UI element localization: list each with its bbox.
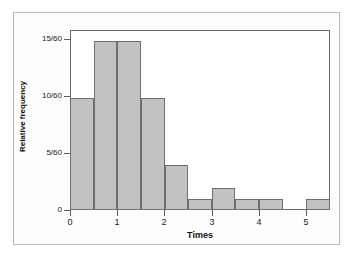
- x-tick-label-5: 5: [298, 217, 314, 228]
- histogram-bar: [165, 165, 189, 210]
- plot-area: [70, 30, 330, 210]
- y-tick-label-15-60: 15/60: [42, 34, 62, 43]
- histogram-bar: [259, 199, 283, 210]
- x-tick-3: [212, 210, 213, 216]
- histogram-bar: [141, 98, 165, 211]
- histogram-bar: [212, 188, 236, 211]
- histogram-bar: [94, 41, 118, 210]
- x-tick-2: [164, 210, 165, 216]
- x-tick-label-0: 0: [62, 217, 78, 228]
- y-tick-label-10-60: 10/60: [42, 91, 62, 100]
- histogram-figure: 0 5/60 10/60 15/60 Relative frequency 0 …: [0, 0, 361, 259]
- x-tick-label-4: 4: [251, 217, 267, 228]
- x-tick-4: [259, 210, 260, 216]
- histogram-bar: [70, 98, 94, 211]
- y-tick-label-0: 0: [58, 205, 62, 214]
- y-tick-label-5-60: 5/60: [46, 148, 62, 157]
- y-axis-title: Relative frequency: [18, 57, 27, 177]
- x-tick-5: [306, 210, 307, 216]
- histogram-bar: [188, 199, 212, 210]
- x-tick-0: [70, 210, 71, 216]
- histogram-bar: [306, 199, 330, 210]
- x-tick-1: [117, 210, 118, 216]
- histogram-bar: [235, 199, 259, 210]
- x-axis-title: Times: [70, 230, 330, 240]
- x-tick-label-3: 3: [204, 217, 220, 228]
- x-tick-label-2: 2: [156, 217, 172, 228]
- x-tick-label-1: 1: [109, 217, 125, 228]
- histogram-bar: [117, 41, 141, 210]
